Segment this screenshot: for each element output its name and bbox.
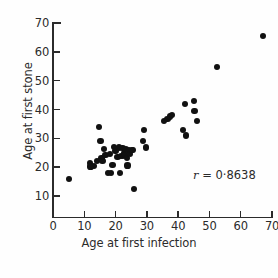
data-point bbox=[140, 138, 146, 144]
x-tick-label-70: 70 bbox=[259, 219, 278, 233]
x-tick-20 bbox=[115, 211, 116, 217]
data-point bbox=[108, 170, 114, 176]
x-tick-30 bbox=[146, 211, 147, 217]
x-tick-label-40: 40 bbox=[165, 219, 191, 233]
top-frame-stub bbox=[54, 22, 61, 23]
x-tick-50 bbox=[209, 211, 210, 217]
x-tick-label-60: 60 bbox=[228, 219, 254, 233]
scatter-plot-figure: 10203040506070 010203040506070 r = 0·863… bbox=[0, 0, 278, 278]
data-point bbox=[99, 158, 105, 164]
data-point bbox=[169, 112, 175, 118]
data-point bbox=[131, 186, 137, 192]
x-axis-label: Age at first infection bbox=[0, 236, 278, 250]
data-point bbox=[214, 64, 220, 70]
x-tick-70 bbox=[271, 211, 272, 217]
x-tick-40 bbox=[177, 211, 178, 217]
x-tick-label-0: 0 bbox=[40, 219, 66, 233]
x-tick-label-50: 50 bbox=[196, 219, 222, 233]
x-tick-label-20: 20 bbox=[103, 219, 129, 233]
data-point bbox=[143, 144, 149, 150]
data-point bbox=[91, 163, 97, 169]
x-tick-label-30: 30 bbox=[134, 219, 160, 233]
correlation-equals: = bbox=[199, 168, 216, 182]
data-point bbox=[117, 170, 123, 176]
x-tick-60 bbox=[240, 211, 241, 217]
data-point bbox=[194, 118, 200, 124]
data-point bbox=[97, 138, 103, 144]
data-point bbox=[191, 98, 197, 104]
data-point bbox=[141, 127, 147, 133]
x-tick-label-10: 10 bbox=[71, 219, 97, 233]
data-point bbox=[66, 176, 72, 182]
data-point bbox=[96, 124, 102, 130]
data-point bbox=[109, 162, 115, 168]
correlation-annotation: r = 0·8638 bbox=[193, 168, 256, 182]
x-tick-10 bbox=[84, 211, 85, 217]
y-axis-label: Age at first stone bbox=[21, 21, 35, 201]
data-point bbox=[191, 108, 197, 114]
data-point bbox=[182, 101, 188, 107]
correlation-value: 0·8638 bbox=[215, 168, 255, 182]
data-point bbox=[130, 147, 136, 153]
data-point bbox=[260, 33, 266, 39]
data-point bbox=[124, 162, 130, 168]
data-point bbox=[183, 132, 189, 138]
